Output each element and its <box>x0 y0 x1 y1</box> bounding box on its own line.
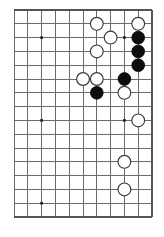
white-stone[interactable] <box>104 31 117 44</box>
star-point <box>40 202 43 205</box>
white-stone[interactable] <box>118 155 131 168</box>
white-stone[interactable] <box>77 73 90 86</box>
black-stone[interactable] <box>132 31 145 44</box>
star-point <box>40 119 43 122</box>
grid-lines <box>14 10 152 217</box>
black-stone[interactable] <box>132 45 145 58</box>
star-point <box>40 36 43 39</box>
white-stone[interactable] <box>90 73 103 86</box>
white-stone[interactable] <box>90 45 103 58</box>
go-board[interactable] <box>0 0 164 237</box>
white-stone[interactable] <box>132 17 145 30</box>
white-stone[interactable] <box>132 114 145 127</box>
black-stone[interactable] <box>118 73 131 86</box>
star-point <box>123 36 126 39</box>
white-stone[interactable] <box>90 17 103 30</box>
star-point <box>123 119 126 122</box>
go-diagram <box>0 0 164 237</box>
black-stone[interactable] <box>90 86 103 99</box>
black-stone[interactable] <box>132 59 145 72</box>
white-stone[interactable] <box>118 183 131 196</box>
white-stone[interactable] <box>118 86 131 99</box>
